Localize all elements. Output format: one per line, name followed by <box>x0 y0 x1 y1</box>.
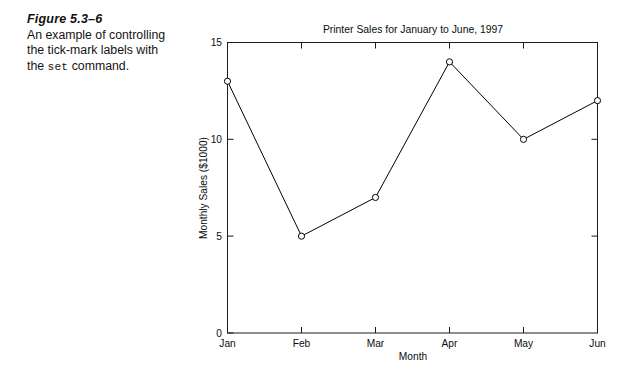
y-tick-label-15: 15 <box>211 37 223 48</box>
x-axis-ticks-top <box>302 43 524 49</box>
y-axis-ticks-left <box>228 43 234 334</box>
line-chart: Printer Sales for January to June, 1997 <box>0 0 626 375</box>
y-axis-label: Monthly Sales ($1000) <box>198 137 209 239</box>
x-tick-label-jan: Jan <box>219 338 235 349</box>
x-axis-label: Month <box>399 351 427 362</box>
data-point-feb <box>298 233 304 239</box>
chart-title: Printer Sales for January to June, 1997 <box>323 24 503 35</box>
data-point-mar <box>372 194 378 200</box>
plot-frame <box>228 43 598 334</box>
x-tick-label-may: May <box>514 338 534 349</box>
figure-plot: Printer Sales for January to June, 1997 <box>0 0 626 375</box>
x-axis-ticks-bottom <box>302 327 524 333</box>
data-point-may <box>520 136 526 142</box>
x-tick-label-apr: Apr <box>442 338 458 349</box>
data-series-line <box>228 62 598 236</box>
x-tick-label-mar: Mar <box>367 338 385 349</box>
x-tick-label-jun: Jun <box>589 338 605 349</box>
data-series-markers <box>224 59 600 239</box>
data-point-jan <box>224 78 230 84</box>
y-tick-label-5: 5 <box>216 231 222 242</box>
y-tick-label-10: 10 <box>211 134 223 145</box>
x-tick-label-feb: Feb <box>293 338 311 349</box>
data-point-apr <box>446 59 452 65</box>
data-point-jun <box>594 98 600 104</box>
y-axis-ticks-right <box>592 139 598 236</box>
